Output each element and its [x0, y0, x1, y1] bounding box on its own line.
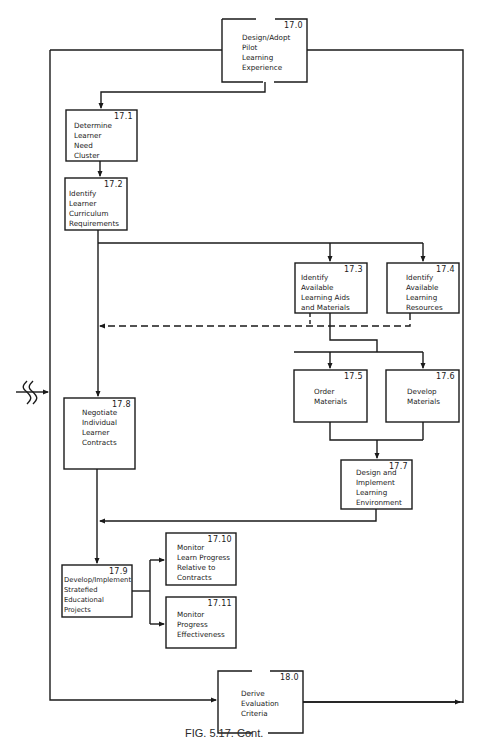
process-number: 18.0	[280, 673, 299, 682]
process-box-17-11: 17.11 Monitor Progress Effectiveness	[166, 597, 236, 648]
process-number: 17.5	[344, 372, 363, 381]
figure-caption: FIG. 5.17. Cont.	[185, 727, 263, 739]
process-label: Design/Adopt Pilot Learning Experience	[242, 33, 290, 73]
process-label: Identify Available Learning Aids and Mat…	[301, 273, 350, 313]
process-box-17-8: 17.8 Negotiate Individual Learner Contra…	[64, 398, 135, 469]
process-label: Develop/Implement Stratefied Educational…	[64, 575, 131, 615]
process-box-17-7: 17.7 Design and Implement Learning Envir…	[341, 460, 412, 509]
process-box-18-0: 18.0 Derive Evaluation Criteria	[218, 671, 303, 733]
process-label: Identify Learner Curriculum Requirements	[69, 189, 119, 229]
process-label: Identify Available Learning Resources	[406, 273, 443, 313]
process-label: Monitor Learn Progress Relative to Contr…	[177, 543, 230, 583]
process-box-17-5: 17.5 Order Materials	[294, 370, 367, 422]
process-box-17-9: 17.9 Develop/Implement Stratefied Educat…	[62, 565, 132, 617]
process-number: 17.6	[436, 372, 455, 381]
process-label: Design and Implement Learning Environmen…	[356, 468, 402, 508]
process-box-17-10: 17.10 Monitor Learn Progress Relative to…	[166, 533, 236, 585]
process-box-17-0: 17.0 Design/Adopt Pilot Learning Experie…	[222, 19, 307, 82]
process-label: Order Materials	[314, 387, 347, 407]
process-box-17-4: 17.4 Identify Available Learning Resourc…	[387, 263, 459, 313]
process-label: Determine Learner Need Cluster	[74, 121, 112, 161]
process-number: 17.0	[284, 21, 303, 30]
process-box-17-2: 17.2 Identify Learner Curriculum Require…	[65, 178, 127, 230]
process-number: 17.11	[208, 599, 232, 608]
process-box-17-3: 17.3 Identify Available Learning Aids an…	[295, 263, 367, 313]
process-label: Develop Materials	[407, 387, 440, 407]
process-label: Negotiate Individual Learner Contracts	[82, 408, 117, 448]
process-box-17-6: 17.6 Develop Materials	[386, 370, 459, 422]
process-box-17-1: 17.1 Determine Learner Need Cluster	[66, 110, 137, 161]
process-label: Derive Evaluation Criteria	[241, 689, 279, 719]
process-number: 17.2	[104, 180, 123, 189]
process-label: Monitor Progress Effectiveness	[177, 610, 225, 640]
process-number: 17.1	[114, 112, 133, 121]
